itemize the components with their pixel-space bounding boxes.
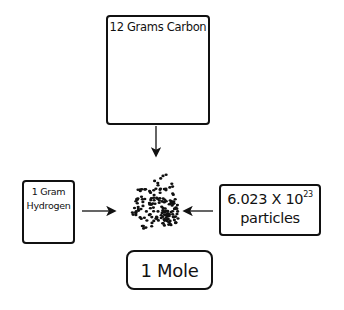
- hydrogen-line2: Hydrogen: [24, 199, 73, 213]
- mole-box: 1 Mole: [126, 250, 213, 290]
- avogadro-exponent: 23: [303, 190, 313, 199]
- hydrogen-line1: 1 Gram: [24, 185, 73, 199]
- avogadro-base: 6.023 X 10: [227, 191, 303, 207]
- mole-label: 1 Mole: [128, 260, 211, 281]
- hydrogen-box: 1 Gram Hydrogen: [22, 180, 75, 244]
- avogadro-number: 6.023 X 1023: [221, 190, 319, 207]
- particles-box: 6.023 X 1023 particles: [219, 184, 321, 236]
- carbon-box: 12 Grams Carbon: [106, 15, 210, 125]
- particles-label: particles: [221, 210, 319, 226]
- carbon-title: 12 Grams Carbon: [108, 20, 208, 34]
- particle-cluster-icon: [131, 173, 180, 229]
- hydrogen-title: 1 Gram Hydrogen: [24, 185, 73, 213]
